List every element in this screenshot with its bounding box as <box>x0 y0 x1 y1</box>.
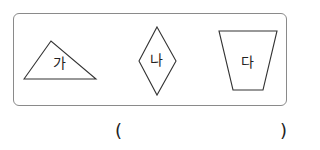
answer-open-paren: ( <box>115 122 122 140</box>
shape-label-ga: 가 <box>53 56 66 70</box>
answer-close-paren: ) <box>280 122 287 140</box>
shape-label-na: 나 <box>150 53 163 67</box>
answer-blank[interactable] <box>132 122 278 144</box>
shape-label-da: 다 <box>241 55 254 69</box>
